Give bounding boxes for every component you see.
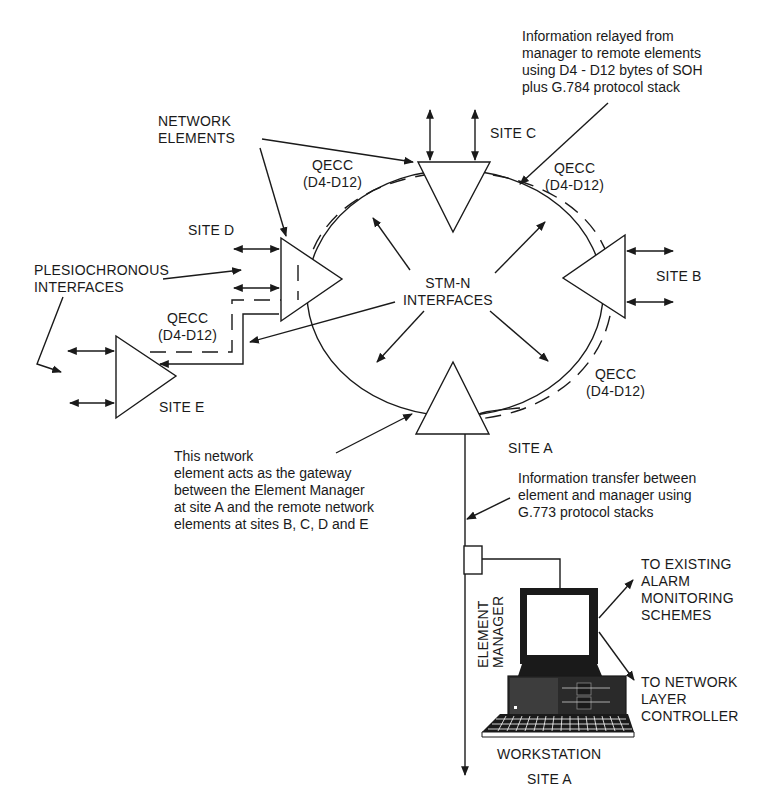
label-workstation: WORKSTATION bbox=[497, 746, 601, 763]
note-info-transfer: Information transfer between element and… bbox=[518, 470, 696, 521]
label-site-d: SITE D bbox=[188, 222, 234, 239]
label-plesiochronous: PLESIOCHRONOUS INTERFACES bbox=[34, 262, 169, 296]
label-element-manager: ELEMENT MANAGER bbox=[476, 596, 506, 668]
label-qecc-top-right: QECC (D4-D12) bbox=[545, 160, 604, 194]
note-info-relayed: Information relayed from manager to remo… bbox=[522, 28, 703, 96]
label-site-e: SITE E bbox=[159, 399, 205, 416]
label-workstation-site: SITE A bbox=[527, 771, 572, 788]
label-to-network-layer: TO NETWORK LAYER CONTROLLER bbox=[641, 674, 739, 725]
label-site-b: SITE B bbox=[656, 268, 702, 285]
site-b-network-element bbox=[563, 235, 625, 318]
label-site-a: SITE A bbox=[508, 440, 553, 457]
label-qecc-bottom-right: QECC (D4-D12) bbox=[586, 366, 645, 400]
note-gateway: This network element acts as the gateway… bbox=[174, 448, 374, 533]
site-d-network-element bbox=[281, 238, 342, 321]
label-network-elements: NETWORK ELEMENTS bbox=[158, 113, 235, 147]
label-stm-n: STM-N INTERFACES bbox=[403, 275, 493, 309]
site-c-network-element bbox=[418, 162, 490, 232]
site-a-network-element bbox=[416, 362, 489, 434]
label-qecc-top-left: QECC (D4-D12) bbox=[303, 157, 362, 191]
label-to-alarm: TO EXISTING ALARM MONITORING SCHEMES bbox=[641, 556, 734, 624]
label-qecc-left: QECC (D4-D12) bbox=[158, 310, 217, 344]
label-site-c: SITE C bbox=[490, 125, 536, 142]
